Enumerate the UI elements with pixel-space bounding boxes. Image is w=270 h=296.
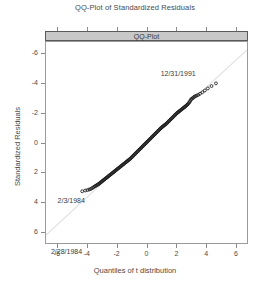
annotation-bottom-left: 2/28/1984 [51, 248, 82, 255]
x-tick-label: -2 [106, 250, 128, 257]
y-tick-label: 2 [22, 168, 38, 175]
x-tick-bottom [117, 244, 118, 248]
panel-strip-label: QQ-Plot [46, 32, 247, 40]
x-tick-bottom [206, 244, 207, 248]
annotation-lower-left: 2/3/1984 [58, 197, 85, 204]
x-tick-label: 6 [225, 250, 247, 257]
x-tick-top [57, 27, 58, 31]
y-tick-label: 0 [22, 139, 38, 146]
annotation-upper-right: 12/31/1991 [161, 70, 196, 77]
y-tick [41, 113, 45, 114]
y-tick-label: -2 [22, 109, 38, 116]
x-tick-label: 0 [136, 250, 158, 257]
y-tick [41, 53, 45, 54]
x-tick-top [87, 27, 88, 31]
data-point [215, 82, 218, 85]
y-tick [41, 232, 45, 233]
data-point [210, 85, 213, 88]
panel-strip: QQ-Plot [45, 31, 248, 41]
page-title: QQ-Plot of Standardized Residuals [0, 3, 270, 12]
y-tick [41, 172, 45, 173]
x-tick-bottom [147, 244, 148, 248]
y-tick-label: 6 [22, 228, 38, 235]
x-tick-top [236, 27, 237, 31]
data-points [81, 82, 218, 193]
y-axis-title: Standardized Residuals [13, 72, 22, 222]
y-tick [41, 202, 45, 203]
plot-panel [45, 41, 248, 244]
y-tick-label: -4 [22, 79, 38, 86]
y-tick-label: 4 [22, 198, 38, 205]
data-point [206, 87, 209, 90]
y-tick-label: -6 [22, 49, 38, 56]
x-tick-label: 2 [165, 250, 187, 257]
y-tick [41, 83, 45, 84]
y-tick [41, 143, 45, 144]
x-tick-top [176, 27, 177, 31]
x-tick-label: 4 [195, 250, 217, 257]
x-tick-bottom [176, 244, 177, 248]
data-point [81, 190, 84, 193]
x-tick-top [147, 27, 148, 31]
x-tick-top [206, 27, 207, 31]
x-tick-top [117, 27, 118, 31]
x-tick-bottom [87, 244, 88, 248]
x-axis-title: Quantiles of t distribution [0, 266, 270, 275]
x-tick-bottom [236, 244, 237, 248]
qq-plot-figure: QQ-Plot of Standardized Residuals QQ-Plo… [0, 0, 270, 296]
plot-canvas [46, 42, 247, 243]
